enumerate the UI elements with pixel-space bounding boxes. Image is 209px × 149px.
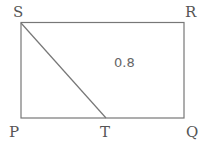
vertex-label-q: Q	[186, 123, 198, 141]
geometry-diagram: S R P T Q 0.8	[0, 0, 209, 149]
vertex-label-r: R	[185, 3, 197, 21]
vertex-label-t: T	[100, 123, 110, 141]
vertex-label-p: P	[9, 123, 19, 141]
rectangle-pqrs	[21, 23, 184, 119]
segment-st	[21, 23, 106, 118]
vertex-label-s: S	[13, 3, 23, 21]
region-value-label: 0.8	[114, 55, 135, 70]
